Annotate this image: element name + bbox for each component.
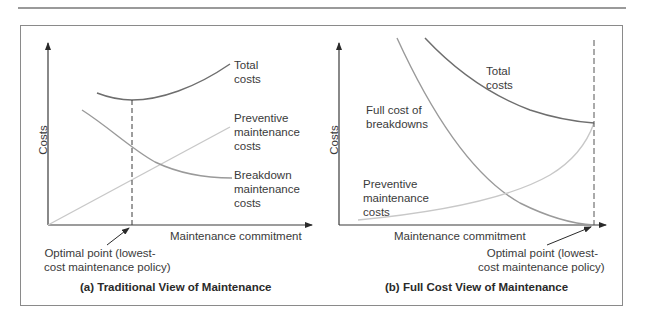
panel-b-preventive-label: Preventive maintenance costs bbox=[363, 177, 429, 219]
panel-b-breakdown-label: Full cost of breakdowns bbox=[366, 103, 428, 131]
panel-a-total-curve bbox=[97, 64, 230, 100]
panel-a-caption: (a) Traditional View of Maintenance bbox=[80, 281, 272, 293]
panel-a-optimal-pointer-arrow bbox=[107, 228, 129, 245]
panel-a-optimal-label: Optimal point (lowest- cost maintenance … bbox=[44, 246, 156, 274]
panel-a-preventive-label: Preventive maintenance costs bbox=[234, 111, 300, 153]
panel-b-total-label: Total costs bbox=[486, 64, 513, 92]
panel-b-x-axis-label: Maintenance commitment bbox=[394, 229, 526, 243]
panel-a-x-axis-label: Maintenance commitment bbox=[170, 229, 302, 243]
panel-a-breakdown-curve bbox=[82, 110, 232, 178]
panel-b-optimal-label: Optimal point (lowest- cost maintenance … bbox=[478, 246, 598, 274]
panel-b-caption: (b) Full Cost View of Maintenance bbox=[385, 281, 568, 293]
maintenance-diagram bbox=[0, 0, 646, 326]
panel-a-y-axis-label: Costs bbox=[37, 125, 49, 154]
panel-b-optimal-pointer-arrow bbox=[547, 227, 591, 245]
panel-b-y-axis-label: Costs bbox=[328, 125, 340, 154]
panel-a-breakdown-label: Breakdown maintenance costs bbox=[234, 168, 300, 210]
panel-a-total-label: Total costs bbox=[234, 58, 261, 86]
